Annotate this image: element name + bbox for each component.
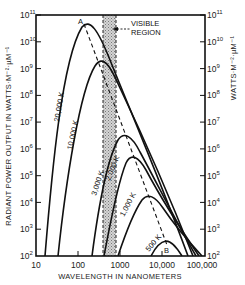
y-axis-title: RADIANT POWER OUTPUT IN WATTS·M⁻²·µM⁻¹ [4, 46, 13, 225]
svg-text:104: 104 [207, 197, 220, 208]
svg-text:1010: 1010 [20, 36, 37, 47]
svg-text:105: 105 [20, 170, 33, 181]
svg-text:108: 108 [207, 89, 220, 100]
label-20000k: 20,000 K [52, 91, 66, 122]
svg-text:104: 104 [20, 197, 33, 208]
svg-text:109: 109 [20, 63, 33, 74]
curve-10000k [58, 61, 193, 256]
svg-text:103: 103 [20, 223, 33, 234]
y-tick-labels-left: 1011 1010 109 108 107 106 105 104 103 10… [20, 9, 37, 261]
blackbody-chart: 1011 1010 109 108 107 106 105 104 103 10… [0, 0, 245, 285]
svg-text:106: 106 [20, 143, 33, 154]
svg-text:VISIBLE: VISIBLE [131, 19, 159, 28]
svg-text:105: 105 [207, 170, 220, 181]
svg-text:103: 103 [207, 223, 220, 234]
y-tick-labels-right: 1011 1010 109 108 107 106 105 104 103 10… [207, 9, 224, 261]
svg-text:107: 107 [20, 116, 33, 127]
svg-text:REGION: REGION [131, 28, 161, 37]
svg-text:1011: 1011 [20, 9, 36, 20]
visible-region-band [103, 15, 116, 256]
svg-text:106: 106 [207, 143, 220, 154]
svg-text:1011: 1011 [207, 9, 223, 20]
svg-text:107: 107 [207, 116, 220, 127]
point-b-label: B [164, 246, 169, 255]
y-ticks [36, 15, 205, 229]
y-axis-title-right: WATTS·M⁻²·µM⁻¹ [229, 36, 238, 101]
point-a-label: A [78, 17, 83, 26]
svg-text:1000: 1000 [111, 260, 130, 270]
svg-text:108: 108 [20, 89, 33, 100]
svg-text:109: 109 [207, 63, 220, 74]
svg-text:10: 10 [31, 260, 41, 270]
visible-region-annotation: VISIBLE REGION [112, 19, 161, 37]
svg-text:1010: 1010 [207, 36, 224, 47]
x-axis-title: WAVELENGTH IN NANOMETERS [58, 272, 181, 281]
svg-text:10,000: 10,000 [149, 260, 175, 270]
x-tick-labels: 10 100 1000 10,000 100,000 [31, 260, 217, 270]
label-10000k: 10,000 K [65, 119, 80, 150]
svg-text:100: 100 [71, 260, 85, 270]
svg-text:100,000: 100,000 [187, 260, 218, 270]
